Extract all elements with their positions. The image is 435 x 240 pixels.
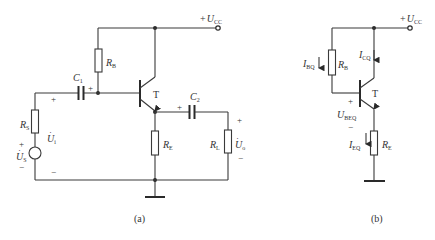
rl-label: RL — [209, 139, 220, 151]
caption-b: (b) — [371, 213, 383, 225]
us-dot: · — [18, 145, 21, 155]
ubeq-plus: + — [348, 96, 353, 106]
vcc-terminal-b — [408, 26, 412, 30]
uo-minus: − — [238, 153, 243, 163]
rb-label: RB — [105, 57, 116, 69]
re-label-b: RE — [381, 139, 392, 151]
circuit-a: +UCC RB C1 + + T C2 + RE RL + Uo · − RS … — [16, 13, 245, 225]
ui-minus: − — [51, 167, 56, 177]
vcc-label: +UCC — [200, 13, 222, 25]
icq-label: ICQ — [358, 49, 371, 61]
resistor-rl — [225, 130, 232, 153]
ui-plus: + — [51, 94, 56, 104]
c2-plus: + — [177, 102, 182, 112]
ubeq-label: UBEQ — [337, 109, 357, 121]
resistor-rb-b — [329, 50, 336, 75]
ubeq-minus: − — [348, 122, 353, 132]
transistor-label: T — [153, 89, 159, 100]
circuit-diagrams: +UCC RB C1 + + T C2 + RE RL + Uo · − RS … — [0, 0, 435, 240]
resistor-re — [152, 131, 159, 155]
rs-label: RS — [19, 119, 29, 131]
c1-label: C1 — [73, 72, 83, 84]
rb-label-b: RB — [337, 59, 348, 71]
circuit-b: +UCC IBQ RB ICQ T + UBEQ − IEQ RE (b) — [302, 13, 422, 225]
resistor-rb — [95, 49, 102, 72]
resistor-rs — [32, 110, 39, 133]
uo-dot: · — [236, 133, 239, 143]
c2-label: C2 — [190, 91, 200, 103]
vcc-terminal — [216, 26, 220, 30]
us-minus: − — [19, 162, 24, 172]
voltage-source-icon — [29, 147, 41, 159]
caption-a: (a) — [134, 213, 145, 225]
ibq-label: IBQ — [302, 58, 315, 70]
uo-plus: + — [237, 115, 242, 125]
resistor-re-b — [371, 131, 378, 155]
ieq-label: IEQ — [348, 139, 361, 151]
ui-dot: · — [49, 127, 52, 137]
c1-plus: + — [88, 83, 93, 93]
re-label: RE — [162, 139, 173, 151]
transistor-label-b: T — [372, 88, 378, 99]
vcc-label-b: +UCC — [400, 13, 422, 25]
